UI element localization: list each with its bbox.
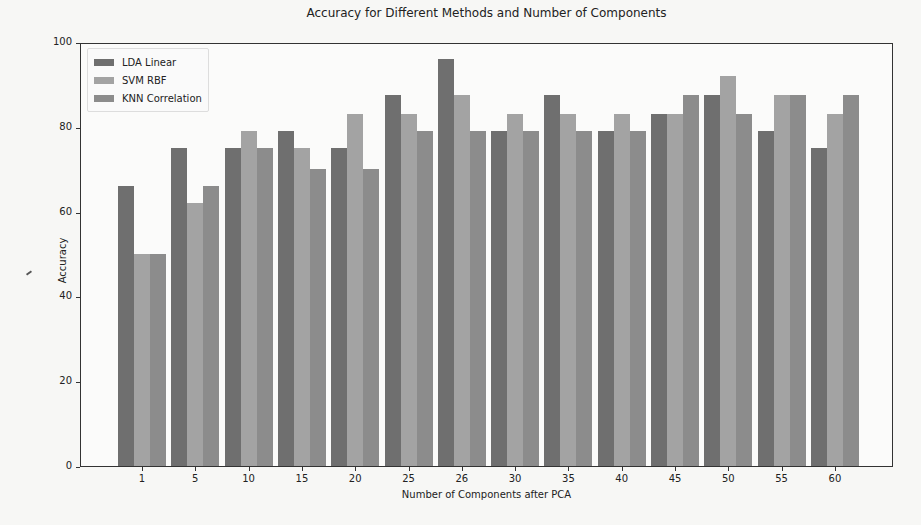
bar-lda-linear bbox=[331, 148, 347, 466]
legend-item: SVM RBF bbox=[94, 71, 202, 89]
x-tick-label: 45 bbox=[660, 473, 690, 484]
bar-svm-rbf bbox=[187, 203, 203, 466]
bar-knn-correlation bbox=[417, 131, 433, 466]
y-tick bbox=[76, 467, 80, 468]
x-tick bbox=[409, 467, 410, 471]
bar-knn-correlation bbox=[683, 95, 699, 466]
x-tick bbox=[249, 467, 250, 471]
bar-knn-correlation bbox=[257, 148, 273, 466]
bar-lda-linear bbox=[225, 148, 241, 466]
y-tick-label: 80 bbox=[32, 121, 72, 132]
legend-swatch bbox=[94, 77, 114, 84]
x-tick-label: 40 bbox=[607, 473, 637, 484]
legend-label: SVM RBF bbox=[122, 75, 167, 86]
y-axis-label: Accuracy bbox=[57, 221, 68, 301]
x-tick bbox=[728, 467, 729, 471]
bar-svm-rbf bbox=[827, 114, 843, 466]
bar-lda-linear bbox=[758, 131, 774, 466]
x-tick bbox=[302, 467, 303, 471]
x-tick bbox=[515, 467, 516, 471]
x-tick-label: 30 bbox=[500, 473, 530, 484]
bar-svm-rbf bbox=[667, 114, 683, 466]
x-axis-label: Number of Components after PCA bbox=[80, 489, 893, 500]
bar-lda-linear bbox=[651, 114, 667, 466]
bar-svm-rbf bbox=[401, 114, 417, 466]
bar-lda-linear bbox=[438, 59, 454, 466]
bar-svm-rbf bbox=[507, 114, 523, 466]
x-tick-label: 5 bbox=[180, 473, 210, 484]
y-tick-label: 20 bbox=[32, 375, 72, 386]
bar-lda-linear bbox=[491, 131, 507, 466]
x-tick bbox=[142, 467, 143, 471]
x-tick-label: 1 bbox=[127, 473, 157, 484]
legend: LDA LinearSVM RBFKNN Correlation bbox=[87, 48, 209, 112]
x-tick bbox=[782, 467, 783, 471]
bar-svm-rbf bbox=[774, 95, 790, 466]
bar-lda-linear bbox=[704, 95, 720, 466]
plot-area: LDA LinearSVM RBFKNN Correlation bbox=[80, 43, 893, 467]
legend-label: KNN Correlation bbox=[122, 93, 202, 104]
x-tick bbox=[355, 467, 356, 471]
bar-svm-rbf bbox=[294, 148, 310, 466]
x-tick-label: 26 bbox=[447, 473, 477, 484]
bar-lda-linear bbox=[811, 148, 827, 466]
chart-title: Accuracy for Different Methods and Numbe… bbox=[80, 6, 893, 20]
bar-lda-linear bbox=[598, 131, 614, 466]
legend-swatch bbox=[94, 95, 114, 102]
x-tick bbox=[675, 467, 676, 471]
x-tick bbox=[622, 467, 623, 471]
bar-knn-correlation bbox=[790, 95, 806, 466]
bar-lda-linear bbox=[278, 131, 294, 466]
x-tick-label: 55 bbox=[767, 473, 797, 484]
bar-svm-rbf bbox=[347, 114, 363, 466]
x-tick-label: 35 bbox=[553, 473, 583, 484]
bar-svm-rbf bbox=[720, 76, 736, 466]
bar-svm-rbf bbox=[614, 114, 630, 466]
bar-svm-rbf bbox=[560, 114, 576, 466]
x-tick-label: 60 bbox=[820, 473, 850, 484]
bar-knn-correlation bbox=[363, 169, 379, 466]
y-tick-label: 60 bbox=[32, 206, 72, 217]
x-tick bbox=[568, 467, 569, 471]
bar-knn-correlation bbox=[843, 95, 859, 466]
x-tick-label: 10 bbox=[234, 473, 264, 484]
x-tick bbox=[195, 467, 196, 471]
bar-knn-correlation bbox=[736, 114, 752, 466]
bar-lda-linear bbox=[385, 95, 401, 466]
bar-knn-correlation bbox=[470, 131, 486, 466]
x-tick-label: 50 bbox=[713, 473, 743, 484]
bar-svm-rbf bbox=[241, 131, 257, 466]
y-tick-label: 0 bbox=[32, 460, 72, 471]
bar-svm-rbf bbox=[134, 254, 150, 466]
bar-knn-correlation bbox=[523, 131, 539, 466]
x-tick-label: 25 bbox=[394, 473, 424, 484]
bar-svm-rbf bbox=[454, 95, 470, 466]
bar-lda-linear bbox=[171, 148, 187, 466]
bar-knn-correlation bbox=[630, 131, 646, 466]
x-tick bbox=[835, 467, 836, 471]
chart-figure: Accuracy for Different Methods and Numbe… bbox=[0, 0, 921, 525]
x-tick-label: 20 bbox=[340, 473, 370, 484]
bar-knn-correlation bbox=[576, 131, 592, 466]
legend-item: LDA Linear bbox=[94, 53, 202, 71]
bar-lda-linear bbox=[544, 95, 560, 466]
bar-lda-linear bbox=[118, 186, 134, 466]
scan-artifact bbox=[26, 270, 32, 275]
x-tick bbox=[462, 467, 463, 471]
bar-knn-correlation bbox=[150, 254, 166, 466]
y-tick-label: 40 bbox=[32, 290, 72, 301]
bar-knn-correlation bbox=[203, 186, 219, 466]
legend-swatch bbox=[94, 59, 114, 66]
legend-label: LDA Linear bbox=[122, 57, 176, 68]
legend-item: KNN Correlation bbox=[94, 89, 202, 107]
bar-knn-correlation bbox=[310, 169, 326, 466]
x-tick-label: 15 bbox=[287, 473, 317, 484]
y-tick-label: 100 bbox=[32, 36, 72, 47]
